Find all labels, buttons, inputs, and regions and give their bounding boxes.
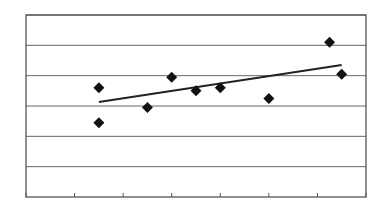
diamond-marker [142, 102, 153, 113]
data-points [93, 37, 347, 128]
scatter-chart [0, 0, 387, 213]
diamond-marker [336, 69, 347, 80]
diamond-marker [93, 82, 104, 93]
diamond-marker [166, 72, 177, 83]
diamond-marker [93, 117, 104, 128]
diamond-marker [263, 93, 274, 104]
diamond-marker [324, 37, 335, 48]
